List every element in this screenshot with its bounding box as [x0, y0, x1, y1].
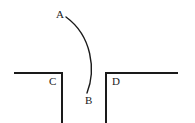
label-a: A: [56, 9, 64, 20]
label-c: C: [49, 76, 56, 87]
diagram-canvas: A B C D: [0, 0, 195, 123]
diagram-svg: [0, 0, 195, 123]
label-b: B: [85, 95, 92, 106]
label-d: D: [112, 76, 120, 87]
curved-arc-ab: [66, 17, 91, 93]
